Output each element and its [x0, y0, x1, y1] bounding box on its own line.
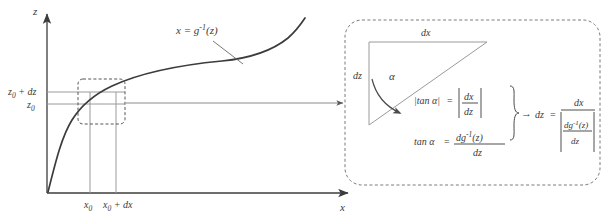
right-panel: dx dz α |tan α| = dx dz tan α = d: [345, 20, 600, 185]
equation-tan-alpha-derivative: tan α = dg-1(z) dz: [414, 130, 505, 158]
x-tick-x0: x0: [83, 199, 92, 213]
diagram-svg: z x x = g-1(z) z0 + d: [0, 0, 614, 223]
eq2-denominator: dz: [473, 147, 482, 158]
curve-label-exponent: -1: [199, 23, 206, 32]
eq2-lhs: tan α: [414, 136, 435, 147]
svg-text:x = g-1(z): x = g-1(z): [175, 23, 218, 37]
eq2-equals: =: [444, 136, 450, 147]
svg-text:dg-1(z): dg-1(z): [564, 119, 588, 131]
eq1-lhs: |tan α|: [414, 95, 440, 106]
eq1-denominator: dz: [464, 106, 473, 117]
magnified-region-box: [78, 79, 125, 124]
y-tick-z0-plus-dz: z0 + dz: [7, 86, 36, 100]
grouping-brace: [510, 86, 519, 140]
triangle-alpha-label: α: [389, 70, 395, 82]
result-numerator: dx: [574, 97, 584, 108]
eq2-numerator-base: dg: [456, 132, 466, 143]
figure-canvas: z x x = g-1(z) z0 + d: [0, 0, 614, 223]
y-tick-0-suffix: + dz: [16, 86, 37, 97]
x-tick-1-suffix: + dx: [111, 199, 133, 210]
curve-label: x = g-1(z): [175, 23, 218, 37]
result-den-denominator: dz: [571, 136, 580, 146]
result-equals: =: [550, 109, 556, 120]
x-tick-0-subscript: 0: [88, 204, 92, 213]
y-tick-z0: z0: [26, 99, 35, 113]
svg-text:dg-1(z): dg-1(z): [456, 130, 483, 144]
eq1-equals: =: [447, 95, 453, 106]
z-axis-label: z: [32, 5, 38, 17]
curve-label-text: x = g: [175, 24, 200, 36]
svg-text:z0 + dz: z0 + dz: [7, 86, 36, 100]
right-panel-border: [345, 20, 600, 185]
result-den-numerator-argument: (z): [579, 120, 589, 130]
curve-label-argument: (z): [206, 24, 218, 37]
triangle-dz-label: dz: [353, 70, 362, 81]
inverse-function-curve: [48, 18, 305, 192]
eq2-numerator-argument: (z): [472, 132, 483, 144]
alpha-angle-arrow: [372, 79, 400, 113]
y-tick-1-subscript: 0: [31, 104, 35, 113]
implies-arrow: →: [521, 107, 532, 119]
result-lhs: dz: [535, 109, 544, 120]
svg-text:x0: x0: [83, 199, 92, 213]
equation-result-dz: dz = dx dg-1(z) dz: [535, 97, 595, 152]
svg-text:x0 + dx: x0 + dx: [102, 199, 133, 213]
eq1-numerator: dx: [464, 91, 474, 102]
svg-text:z0: z0: [26, 99, 35, 113]
x-tick-x0-plus-dx: x0 + dx: [102, 199, 133, 213]
x-axis-label: x: [339, 201, 345, 213]
triangle-dx-label: dx: [421, 27, 431, 38]
left-panel: z x x = g-1(z) z0 + d: [7, 5, 348, 213]
equation-tan-alpha-abs: |tan α| = dx dz: [414, 88, 481, 118]
